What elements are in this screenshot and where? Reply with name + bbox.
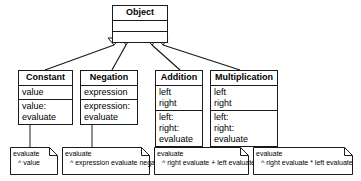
attribute-row: left: [211, 87, 277, 98]
note-box-constant-evaluate[interactable]: evaluate ^ value: [10, 147, 58, 175]
operation-row: left:: [156, 112, 202, 123]
note-text: evaluate ^ right evaluate + left evaluat…: [154, 147, 249, 167]
note-text: evaluate ^ right evaluate * left evaluat…: [253, 147, 353, 167]
operation-row: evaluate: [19, 112, 72, 123]
class-box-addition[interactable]: Addition left right left: right: evaluat…: [155, 70, 203, 147]
operation-row: evaluate: [156, 134, 202, 145]
class-name-multiplication: Multiplication: [211, 71, 277, 86]
note-body: ^ value: [13, 158, 55, 167]
class-name-negation: Negation: [81, 71, 137, 86]
attribute-row: left: [156, 87, 202, 98]
class-name-addition: Addition: [156, 71, 202, 86]
note-box-addition-evaluate[interactable]: evaluate ^ right evaluate + left evaluat…: [154, 147, 249, 175]
class-attributes-addition: left right: [156, 86, 202, 111]
note-body: ^ right evaluate * left evaluate: [256, 158, 350, 167]
operation-row: left:: [211, 112, 277, 123]
class-attributes-multiplication: left right: [211, 86, 277, 111]
operation-row: right:: [211, 123, 277, 134]
class-box-object[interactable]: Object: [112, 5, 168, 43]
generalization-line-constant: [45, 45, 114, 70]
class-operations-multiplication: left: right: evaluate: [211, 111, 277, 146]
class-attributes-object: [113, 21, 167, 32]
class-box-negation[interactable]: Negation expression expression: evaluate: [80, 70, 138, 125]
class-name-constant: Constant: [19, 71, 72, 86]
class-attributes-constant: value: [19, 86, 72, 100]
note-body: ^ expression evaluate negated: [65, 158, 147, 167]
note-box-negation-evaluate[interactable]: evaluate ^ expression evaluate negated: [62, 147, 150, 175]
class-attributes-negation: expression: [81, 86, 137, 100]
class-operations-object: [113, 32, 167, 42]
class-operations-addition: left: right: evaluate: [156, 111, 202, 146]
generalization-line-negation: [112, 45, 126, 70]
operation-row: value:: [19, 101, 72, 112]
class-name-object: Object: [113, 6, 167, 21]
generalization-line-multiplication: [163, 45, 240, 70]
note-text: evaluate ^ value: [10, 147, 58, 167]
attribute-row: expression: [81, 87, 137, 98]
class-operations-constant: value: evaluate: [19, 100, 72, 124]
operation-row: evaluate: [81, 112, 137, 123]
class-box-multiplication[interactable]: Multiplication left right left: right: e…: [210, 70, 278, 147]
note-header: evaluate: [256, 149, 350, 158]
attribute-row: value: [19, 87, 72, 98]
operation-row: right:: [156, 123, 202, 134]
attribute-row: right: [156, 98, 202, 109]
note-header: evaluate: [13, 149, 55, 158]
note-header: evaluate: [157, 149, 246, 158]
class-operations-negation: expression: evaluate: [81, 100, 137, 124]
operation-row: evaluate: [211, 134, 277, 145]
note-header: evaluate: [65, 149, 147, 158]
generalization-line-addition: [152, 45, 180, 70]
class-box-constant[interactable]: Constant value value: evaluate: [18, 70, 73, 125]
operation-row: expression:: [81, 101, 137, 112]
note-box-multiplication-evaluate[interactable]: evaluate ^ right evaluate * left evaluat…: [253, 147, 353, 175]
note-text: evaluate ^ expression evaluate negated: [62, 147, 150, 167]
note-body: ^ right evaluate + left evaluate: [157, 158, 246, 167]
attribute-row: right: [211, 98, 277, 109]
uml-class-diagram: Object Constant value value: evaluate Ne…: [0, 0, 361, 181]
